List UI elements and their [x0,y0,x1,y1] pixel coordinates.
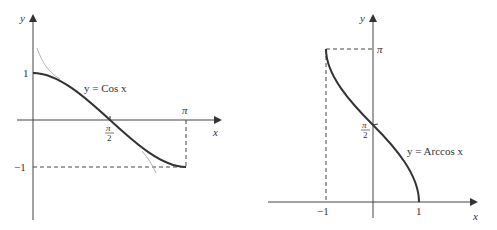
right-tick-label-half-pi-den: 2 [363,130,368,140]
diagram-canvas: y x 1 −1 π π 2 y = Cos x y x π π 2 −1 1 … [0,0,497,230]
arccos-graph: y x π π 2 −1 1 y = Arccos x [268,12,478,222]
left-x-axis-label: x [212,126,218,138]
left-tick-label-half-pi-den: 2 [107,133,112,143]
left-gray-extension-bottom [142,151,156,173]
arccos-curve-label: y = Arccos x [407,145,463,157]
left-tick-label-neg-one: −1 [14,161,26,173]
cos-graph: y x 1 −1 π π 2 y = Cos x [14,12,220,220]
right-tick-label-half-pi-num: π [362,120,367,130]
right-x-axis-label: x [472,210,478,222]
right-y-axis-label: y [359,12,365,24]
left-tick-label-pi: π [182,104,188,116]
right-tick-label-neg-one: −1 [317,205,329,217]
left-tick-label-half-pi-num: π [106,123,111,133]
right-tick-label-pi: π [377,43,383,55]
right-tick-label-one: 1 [416,205,422,217]
left-tick-label-one: 1 [23,67,29,79]
left-y-axis-label: y [19,12,25,24]
cos-curve-label: y = Cos x [84,82,127,94]
